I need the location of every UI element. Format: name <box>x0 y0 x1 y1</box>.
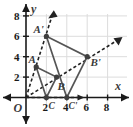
label-b: B <box>57 80 65 92</box>
dilation-diagram: A B C A' B' C' y x O 2 4 6 8 2 4 6 8 <box>0 0 133 127</box>
y-tick-label-8: 8 <box>14 10 20 22</box>
point-c <box>44 95 49 100</box>
y-tick-label-6: 6 <box>14 30 20 42</box>
label-a: A <box>28 53 36 65</box>
origin-label: O <box>14 101 23 115</box>
point-b-prime <box>85 54 90 59</box>
y-tick-label-4: 4 <box>14 51 20 63</box>
x-axis-label: x <box>114 79 121 93</box>
ray-a-arrowhead <box>48 10 57 18</box>
x-tick-label-6: 6 <box>83 101 89 113</box>
label-b-prime: B' <box>90 56 101 68</box>
point-a-prime <box>44 34 49 39</box>
ray-b-arrowhead <box>114 37 123 46</box>
x-tick-label-2: 2 <box>43 101 49 113</box>
ray-c-arrowhead <box>78 94 85 100</box>
point-c-prime <box>64 95 69 100</box>
point-a <box>34 64 39 69</box>
label-a-prime: A' <box>33 23 44 35</box>
label-c: C <box>49 101 56 111</box>
y-axis-label: y <box>29 2 37 16</box>
x-tick-label-8: 8 <box>104 101 110 113</box>
coordinate-plane-figure: A B C A' B' C' y x O 2 4 6 8 2 4 6 8 <box>0 0 133 127</box>
x-tick-label-4: 4 <box>63 101 69 113</box>
label-c-prime: C' <box>69 101 78 111</box>
y-tick-label-2: 2 <box>14 71 20 83</box>
